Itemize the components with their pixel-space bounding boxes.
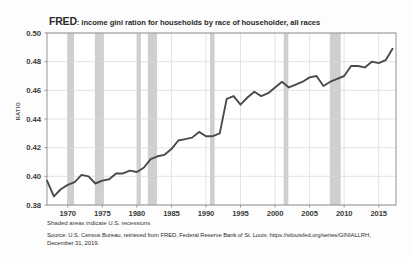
x-axis-tick-label: 2010 — [329, 209, 359, 218]
y-axis-tick-label: 0.38 — [15, 201, 41, 210]
x-axis-tick-label: 2005 — [295, 209, 325, 218]
x-axis-tick-label: 2000 — [260, 209, 290, 218]
x-axis-tick-label: 1975 — [87, 209, 117, 218]
y-axis-tick-label: 0.42 — [15, 143, 41, 152]
recession-note: Shaded areas indicate U.S. recessions — [47, 219, 150, 226]
x-axis-tick-label: 1980 — [122, 209, 152, 218]
source-line-1: Source: U.S. Census Bureau, retrieved fr… — [47, 232, 371, 238]
x-axis-tick-label: 1990 — [191, 209, 221, 218]
x-axis-tick-label: 1995 — [226, 209, 256, 218]
source-note: Source: U.S. Census Bureau, retrieved fr… — [47, 232, 397, 247]
y-axis-tick-label: 0.40 — [15, 172, 41, 181]
x-axis-tick-label: 2015 — [364, 209, 394, 218]
source-line-2: December 31, 2019. — [47, 240, 397, 248]
y-axis-label: RATIO — [15, 91, 21, 131]
x-axis-tick-label: 1970 — [53, 209, 83, 218]
fred-chart-page: FRED: income gini ration for households … — [0, 0, 412, 258]
y-axis-tick-label: 0.48 — [15, 57, 41, 66]
x-axis-tick-label: 1985 — [156, 209, 186, 218]
y-axis-tick-label: 0.50 — [15, 29, 41, 38]
